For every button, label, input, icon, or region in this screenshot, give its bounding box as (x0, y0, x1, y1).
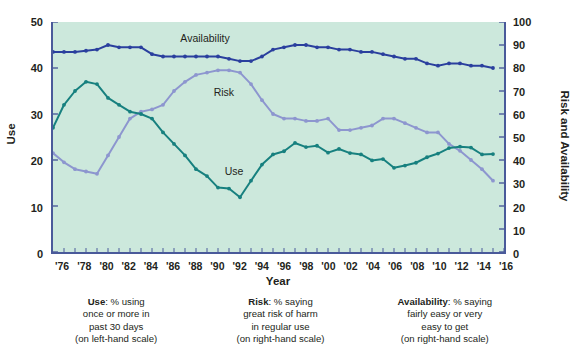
caption-line: Use: % using (34, 296, 198, 308)
y-right-tick-10: 10 (513, 226, 547, 237)
y-right-tick-40: 40 (513, 156, 547, 167)
data-point (84, 80, 88, 84)
data-point (139, 45, 143, 49)
data-point (205, 55, 209, 59)
series-use (53, 80, 495, 199)
data-point (95, 172, 99, 176)
data-point (183, 55, 187, 59)
data-point (337, 128, 341, 132)
data-point (458, 62, 462, 66)
data-point (414, 161, 418, 165)
series-label-use: Use (225, 165, 244, 177)
data-point (458, 149, 462, 153)
data-point (73, 167, 77, 171)
data-point (106, 43, 110, 47)
data-point (326, 117, 330, 121)
data-point (161, 131, 165, 135)
data-point (315, 119, 319, 123)
caption-row: Use: % usingonce or more inpast 30 days(… (0, 296, 561, 346)
data-point (172, 55, 176, 59)
data-point (161, 55, 165, 59)
data-point (491, 66, 495, 70)
data-point (271, 112, 275, 116)
data-point (480, 64, 484, 68)
data-point (249, 179, 253, 183)
y-right-tick-0: 0 (513, 249, 547, 260)
data-point (260, 163, 264, 167)
data-point (403, 121, 407, 125)
caption-line: Risk: % saying (198, 296, 362, 308)
data-point (139, 112, 143, 116)
data-point (392, 166, 396, 170)
data-point (95, 82, 99, 86)
series-risk (53, 68, 495, 182)
data-point (381, 52, 385, 56)
series-label-risk: Risk (214, 86, 234, 98)
data-point (491, 179, 495, 183)
data-point (436, 131, 440, 135)
data-point (403, 57, 407, 61)
caption-line: (on right-hand scale) (363, 333, 527, 345)
data-point (425, 155, 429, 159)
y-right-tick-50: 50 (513, 133, 547, 144)
data-point (73, 89, 77, 93)
data-point (271, 48, 275, 52)
data-point (392, 117, 396, 121)
data-point (249, 82, 253, 86)
data-point (161, 103, 165, 107)
data-point (53, 50, 55, 54)
caption-risk: Risk: % sayinggreat risk of harmin regul… (198, 296, 362, 346)
data-point (447, 146, 451, 150)
caption-availability: Availability: % sayingfairly easy or ver… (363, 296, 527, 346)
data-point (370, 124, 374, 128)
data-point (381, 157, 385, 161)
y-left-tick-50: 50 (9, 17, 43, 28)
data-point (326, 151, 330, 155)
y-right-tick-100: 100 (513, 17, 547, 28)
data-point (172, 89, 176, 93)
series-label-availability: Availability (180, 32, 229, 44)
data-point (205, 71, 209, 75)
data-point (238, 59, 242, 63)
caption-term: Availability (398, 296, 448, 307)
data-point (414, 126, 418, 130)
y-right-tick-60: 60 (513, 110, 547, 121)
caption-use: Use: % usingonce or more inpast 30 days(… (34, 296, 198, 346)
data-point (370, 159, 374, 163)
y-right-tick-80: 80 (513, 63, 547, 74)
data-point (436, 152, 440, 156)
data-point (227, 57, 231, 61)
data-point (106, 96, 110, 100)
caption-line: (on left-hand scale) (34, 333, 198, 345)
caption-line: once or more in (34, 308, 198, 320)
data-point (348, 128, 352, 132)
data-point (128, 117, 132, 121)
caption-line: in regular use (198, 321, 362, 333)
y-left-tick-40: 40 (9, 63, 43, 74)
data-point (73, 50, 77, 54)
data-point (425, 131, 429, 135)
data-point (370, 50, 374, 54)
data-point (106, 154, 110, 158)
data-point (480, 167, 484, 171)
plot-area (51, 22, 506, 254)
data-point (84, 49, 88, 53)
y-right-tick-70: 70 (513, 87, 547, 98)
data-point (117, 103, 121, 107)
data-point (348, 48, 352, 52)
data-point (315, 144, 319, 148)
data-point (381, 117, 385, 121)
data-point (62, 103, 66, 107)
data-point (359, 50, 363, 54)
y-left-tick-0: 0 (9, 249, 43, 260)
data-point (227, 68, 231, 72)
y-right-tick-90: 90 (513, 40, 547, 51)
data-point (194, 167, 198, 171)
y-right-tick-30: 30 (513, 179, 547, 190)
data-point (282, 45, 286, 49)
data-point (62, 160, 66, 164)
data-point (271, 153, 275, 157)
data-point (117, 45, 121, 49)
data-point (469, 158, 473, 162)
data-point (194, 73, 198, 77)
